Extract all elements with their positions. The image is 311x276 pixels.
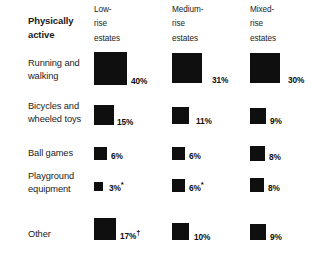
table-row: Other 17%† 10% 9% xyxy=(0,218,311,248)
value-marker-square xyxy=(172,179,185,192)
table-row: Ball games 6% 6% 8% xyxy=(0,146,311,170)
value-marker-square xyxy=(94,182,103,191)
value-label: 10% xyxy=(194,232,210,242)
row-label-line2: equipment xyxy=(28,183,96,196)
value-marker-square xyxy=(94,105,114,125)
cell-playground-mixed-rise: 8% xyxy=(250,178,311,198)
row-label-playground-equipment: Playground equipment xyxy=(28,170,96,195)
row-label-line1: Other xyxy=(28,229,51,239)
value-label: 17%† xyxy=(120,231,140,241)
table-row: Bicycles and wheeled toys 15% 11% 9% xyxy=(0,100,311,134)
value-marker-square xyxy=(94,218,116,240)
value-marker-square xyxy=(172,223,189,240)
column-header-mixed-rise-line2: rise xyxy=(250,17,311,31)
column-header-low-rise: Low- rise estates xyxy=(94,3,156,46)
column-header-mixed-rise-line3: estates xyxy=(250,32,311,46)
row-label-line1: Ball games xyxy=(28,148,73,158)
value-label: 3%* xyxy=(109,183,123,193)
cell-other-mixed-rise: 9% xyxy=(250,224,311,250)
value-label: 9% xyxy=(270,232,282,242)
value-label: 6% xyxy=(189,151,201,161)
column-header-low-rise-line1: Low- xyxy=(94,3,156,17)
table-row: Playground equipment 3%* 6%* 8% xyxy=(0,170,311,204)
value-label: 6%* xyxy=(189,183,203,193)
value-label: 15% xyxy=(117,117,133,127)
value-label: 31% xyxy=(212,75,228,85)
cell-bicycles-medium-rise: 11% xyxy=(172,107,247,133)
value-marker-square xyxy=(250,108,266,124)
value-marker-square xyxy=(172,107,189,124)
cell-other-low-rise: 17%† xyxy=(94,218,169,244)
value-marker-square xyxy=(172,147,185,160)
cell-ball-games-low-rise: 6% xyxy=(94,147,169,167)
row-label-ball-games: Ball games xyxy=(28,147,96,160)
value-marker-square xyxy=(250,53,280,83)
value-label: 11% xyxy=(196,116,212,126)
value-label: 6% xyxy=(111,151,123,161)
physical-activity-table-chart: Physically active Low- rise estates Medi… xyxy=(0,0,311,276)
table-row: Running and walking 40% 31% 30% xyxy=(0,52,311,92)
value-label: 8% xyxy=(268,183,280,193)
value-label: 9% xyxy=(270,116,282,126)
cell-other-medium-rise: 10% xyxy=(172,223,247,249)
row-label-other: Other xyxy=(28,228,96,241)
column-header-medium-rise-line2: rise xyxy=(172,17,234,31)
cell-running-medium-rise: 31% xyxy=(172,53,247,89)
table-header-row: Physically active Low- rise estates Medi… xyxy=(0,0,311,50)
column-header-low-rise-line3: estates xyxy=(94,32,156,46)
cell-running-low-rise: 40% xyxy=(94,52,169,88)
row-label-line2: walking xyxy=(28,70,96,83)
value-label: 40% xyxy=(131,76,147,86)
value-marker-square xyxy=(250,146,265,161)
column-header-medium-rise: Medium- rise estates xyxy=(172,3,234,46)
cell-ball-games-mixed-rise: 8% xyxy=(250,146,311,166)
value-label: 30% xyxy=(288,75,304,85)
cell-playground-medium-rise: 6%* xyxy=(172,179,247,199)
column-header-medium-rise-line1: Medium- xyxy=(172,3,234,17)
row-label-line1: Playground xyxy=(28,171,74,181)
column-header-mixed-rise-line1: Mixed- xyxy=(250,3,311,17)
cell-bicycles-mixed-rise: 9% xyxy=(250,108,311,134)
value-marker-square xyxy=(94,147,107,160)
row-label-running-and-walking: Running and walking xyxy=(28,57,96,82)
row-header-label: Physically active xyxy=(28,14,98,42)
row-label-line1: Bicycles and xyxy=(28,101,79,111)
cell-playground-low-rise: 3%* xyxy=(94,182,169,202)
value-marker-square xyxy=(250,178,264,192)
value-marker-square xyxy=(172,53,202,83)
value-label: 8% xyxy=(269,152,281,162)
value-marker-square xyxy=(94,52,127,85)
column-header-mixed-rise: Mixed- rise estates xyxy=(250,3,311,46)
row-label-bicycles-and-wheeled-toys: Bicycles and wheeled toys xyxy=(28,100,96,125)
cell-ball-games-medium-rise: 6% xyxy=(172,147,247,167)
column-header-low-rise-line2: rise xyxy=(94,17,156,31)
column-header-medium-rise-line3: estates xyxy=(172,32,234,46)
row-label-line2: wheeled toys xyxy=(28,113,96,126)
row-label-line1: Running and xyxy=(28,58,80,68)
cell-bicycles-low-rise: 15% xyxy=(94,105,169,131)
value-marker-square xyxy=(250,224,266,240)
cell-running-mixed-rise: 30% xyxy=(250,53,311,89)
